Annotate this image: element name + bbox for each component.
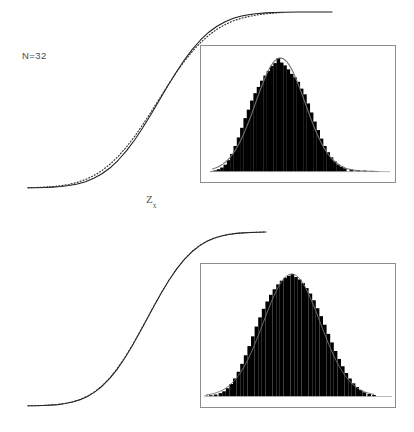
histogram-bar [209,395,213,396]
x-axis-label-zx: Zx [146,193,156,208]
panel-zx: N=32 Zx [0,0,414,216]
histogram-bar [309,294,313,397]
histogram-bar [330,342,334,396]
histogram-bar [263,76,267,172]
histogram-bar [301,283,305,396]
histogram-bar [283,278,287,397]
histogram-bar [300,89,304,172]
histogram-bar [280,63,284,172]
histogram-bar [297,82,301,172]
histogram-bar [367,394,371,396]
histogram-bar [294,277,298,396]
histogram-bar [224,165,228,172]
histogram-bar [316,308,320,396]
histogram-bar [287,69,291,171]
histogram-bar [293,77,297,171]
histogram-bar [298,280,302,397]
histogram-bar [305,288,309,396]
histogram-bar [363,392,367,396]
inset-histogram-zy [201,264,396,408]
histogram-bar [219,393,223,396]
histogram-bar [290,74,294,172]
histogram-bar [220,168,224,172]
histogram-bar [229,384,233,396]
histogram-bar [214,394,218,396]
histogram-bar [372,395,376,396]
histogram-bar [273,289,277,396]
histogram-bar [273,63,277,171]
chart-zx-canvas [0,0,414,216]
histogram-bar [291,274,295,396]
panel-zy: N=32 Zy [0,216,414,432]
histogram-bar [276,284,280,396]
histogram-bar [267,71,271,171]
histogram-bar [226,388,230,396]
histogram-bar [283,65,287,171]
histogram-bar [217,169,221,171]
histogram-bar [287,276,291,396]
figure-root: N=32 Zx N=32 Zy [0,0,414,432]
x-axis-label-sub-zx: x [153,201,157,210]
histogram-bar [277,58,281,172]
histogram-bar [270,66,274,172]
histogram-bar [227,160,231,171]
histogram-bar [312,300,316,396]
histogram-bar [280,281,284,396]
chart-zy-canvas [0,216,414,432]
n-label-zx: N=32 [22,50,47,61]
histogram-bar [269,295,273,396]
histogram-bar [260,81,264,172]
x-axis-label-base-zx: Z [146,193,153,205]
histogram-bar [222,391,226,396]
inset-histogram-zx [201,46,396,183]
